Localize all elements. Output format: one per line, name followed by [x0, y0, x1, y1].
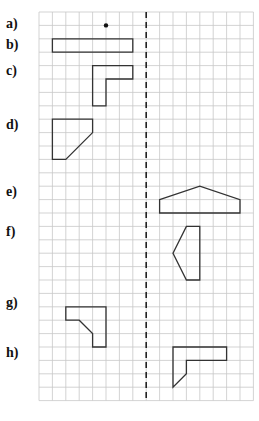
label-b: b) — [6, 37, 18, 53]
label-d: d) — [6, 117, 18, 133]
label-c: c) — [6, 63, 17, 79]
label-g: g) — [6, 295, 18, 311]
shape-d — [52, 119, 92, 159]
label-a: a) — [6, 16, 18, 32]
label-h: h) — [6, 345, 18, 361]
symmetry-exercise-diagram: a)b)c)d)e)f)g)h) — [0, 0, 259, 421]
label-e: e) — [6, 184, 17, 200]
shape-a-point — [104, 23, 108, 27]
label-f: f) — [6, 224, 15, 240]
shape-c — [93, 66, 133, 106]
shape-g — [66, 307, 106, 347]
grid-canvas — [0, 0, 259, 421]
